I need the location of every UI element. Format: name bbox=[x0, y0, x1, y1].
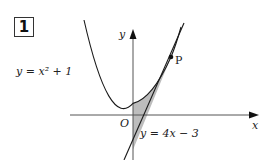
x-axis-label: x bbox=[252, 120, 258, 131]
tangent-label: y = 4x − 3 bbox=[140, 128, 199, 139]
y-axis-arrow-icon bbox=[130, 29, 137, 39]
y-axis-label: y bbox=[119, 29, 125, 40]
point-p-label: P bbox=[175, 55, 182, 66]
parabola-label: y = x² + 1 bbox=[16, 66, 72, 77]
graph bbox=[0, 0, 269, 160]
x-axis-arrow-icon bbox=[249, 112, 259, 119]
origin-label: O bbox=[120, 118, 129, 129]
diagram: 1 y x O P y = x² + 1 y = 4x − 3 bbox=[0, 0, 269, 160]
point-p bbox=[169, 55, 174, 60]
